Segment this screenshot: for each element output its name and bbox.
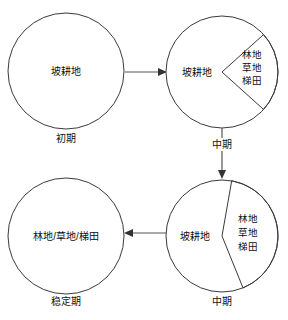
node-middle-lower: 坡耕地 林地 草地 梯田 中期 (166, 180, 278, 307)
circle-middle-upper-center-label: 坡耕地 (182, 66, 212, 78)
wedge-middle-lower-label: 林地 草地 梯田 (238, 213, 258, 252)
circle-middle-lower-center-label: 坡耕地 (180, 230, 210, 242)
land-use-transition-diagram: 坡耕地 初期 坡耕地 林地 草地 梯田 中期 (0, 0, 288, 320)
wedge-label-line-1: 林地 (242, 49, 262, 60)
node-initial: 坡耕地 初期 (8, 13, 124, 144)
wedge-label-line-3: 梯田 (242, 75, 262, 86)
caption-stable: 稳定期 (51, 295, 81, 307)
diagram-canvas: 坡耕地 初期 坡耕地 林地 草地 梯田 中期 (0, 0, 288, 320)
circle-initial-center-label: 坡耕地 (51, 65, 81, 77)
wedge-middle-upper-label: 林地 草地 梯田 (242, 49, 262, 86)
arrow-head-left-icon (124, 229, 133, 237)
wedge-label-line-2: 草地 (238, 227, 258, 238)
arrow-middle-upper-to-middle-lower: 中期 (205, 128, 239, 179)
circle-stable-center-label: 林地/草地/梯田 (33, 230, 99, 242)
arrow-middle-lower-to-stable (124, 229, 166, 237)
wedge-label-line-2: 草地 (242, 62, 262, 73)
caption-initial: 初期 (56, 132, 76, 144)
node-stable: 林地/草地/梯田 稳定期 (8, 178, 124, 307)
caption-middle-upper: 中期 (212, 138, 232, 150)
caption-middle-lower: 中期 (212, 295, 232, 307)
wedge-label-line-1: 林地 (238, 213, 258, 224)
arrow-initial-to-middle-upper (125, 68, 167, 76)
node-middle-upper: 坡耕地 林地 草地 梯田 (166, 16, 278, 128)
arrow-head-down-icon (218, 170, 226, 179)
wedge-label-line-3: 梯田 (238, 241, 258, 252)
